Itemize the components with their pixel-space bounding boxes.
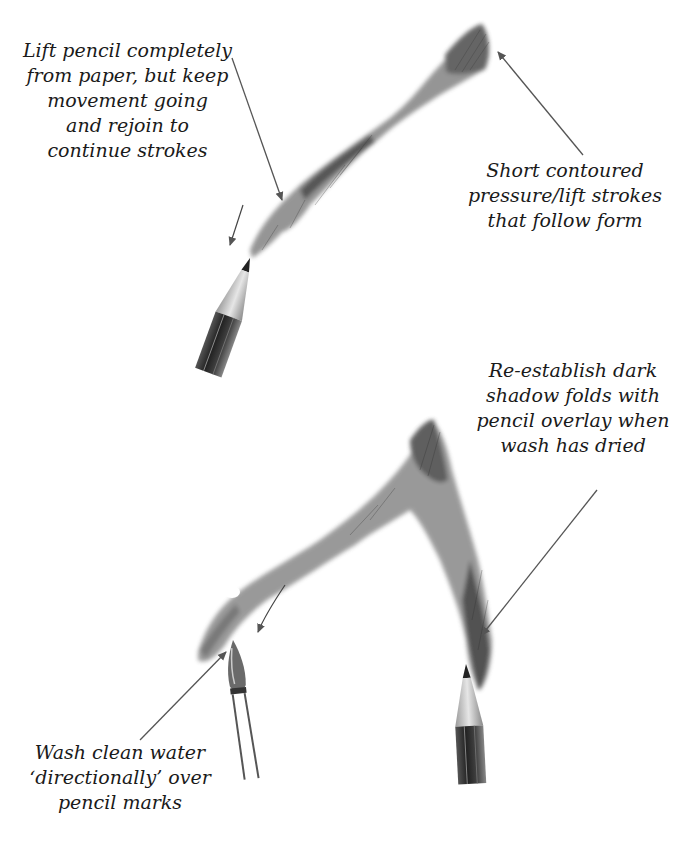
annotation-wash-clean: Wash clean water ‘directionally’ over pe…: [25, 740, 215, 815]
top-pencil-stroke: [250, 24, 489, 258]
annotation-line: Lift pencil completely: [20, 38, 235, 63]
annotation-line: continue strokes: [20, 138, 235, 163]
annotation-line: shadow folds with: [458, 383, 688, 408]
callout-arrow-re-establish: [482, 490, 597, 635]
annotation-short-contoured: Short contoured pressure/lift strokes th…: [460, 158, 670, 233]
callout-arrow-lift: [232, 58, 282, 200]
annotation-line: wash has dried: [458, 433, 688, 458]
annotation-line: pressure/lift strokes: [460, 183, 670, 208]
annotation-line: and rejoin to: [20, 113, 235, 138]
bottom-wash-fold: [198, 420, 492, 690]
annotation-line: that follow form: [460, 208, 670, 233]
annotation-re-establish: Re-establish dark shadow folds with penc…: [458, 358, 688, 458]
annotation-line: movement going: [20, 88, 235, 113]
callout-arrow-wash: [140, 652, 226, 740]
direction-arrow-top: [230, 205, 243, 245]
annotation-lift-pencil: Lift pencil completely from paper, but k…: [20, 38, 235, 163]
annotation-line: ‘directionally’ over: [25, 765, 215, 790]
annotation-line: pencil marks: [25, 790, 215, 815]
brush-icon: [225, 639, 259, 780]
annotation-line: from paper, but keep: [20, 63, 235, 88]
annotation-line: pencil overlay when: [458, 408, 688, 433]
callout-arrow-short: [498, 52, 583, 155]
annotation-line: Short contoured: [460, 158, 670, 183]
annotation-line: Re-establish dark: [458, 358, 688, 383]
annotation-line: Wash clean water: [25, 740, 215, 765]
top-pencil-icon: [195, 253, 263, 377]
illustration-canvas: Lift pencil completely from paper, but k…: [0, 0, 693, 850]
highlight-notch: [224, 586, 240, 598]
